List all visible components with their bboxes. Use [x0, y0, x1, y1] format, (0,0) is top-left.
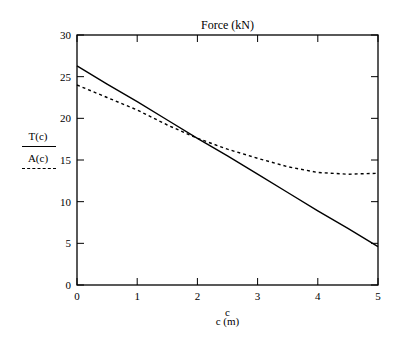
y-tick-label: 15	[60, 154, 72, 166]
x-tick-label: 4	[315, 290, 321, 302]
legend-label-a: A(c)	[18, 152, 58, 164]
chart-canvas: 012345051015202530Force (kN)cc (m)	[0, 0, 401, 343]
chart-title: Force (kN)	[201, 18, 254, 32]
x-tick-label: 0	[74, 290, 80, 302]
legend-item-a: A(c)	[18, 152, 58, 174]
legend-solid-line-icon	[22, 146, 56, 147]
y-tick-label: 5	[66, 237, 72, 249]
series-line-ac	[77, 85, 378, 174]
x-tick-label: 3	[255, 290, 261, 302]
legend-label-t: T(c)	[18, 130, 58, 142]
legend-dashed-line-icon	[22, 168, 56, 169]
y-tick-label: 10	[60, 196, 72, 208]
y-tick-label: 30	[60, 29, 72, 41]
x-axis-label: c (m)	[216, 315, 240, 328]
x-tick-label: 5	[375, 290, 381, 302]
y-tick-label: 20	[60, 112, 72, 124]
legend: T(c) A(c)	[18, 130, 58, 174]
plot-frame	[77, 35, 378, 285]
legend-item-t: T(c)	[18, 130, 58, 152]
x-tick-label: 2	[195, 290, 201, 302]
series-line-tc	[77, 66, 378, 247]
y-tick-label: 25	[60, 71, 72, 83]
x-tick-label: 1	[134, 290, 140, 302]
y-tick-label: 0	[66, 279, 72, 291]
